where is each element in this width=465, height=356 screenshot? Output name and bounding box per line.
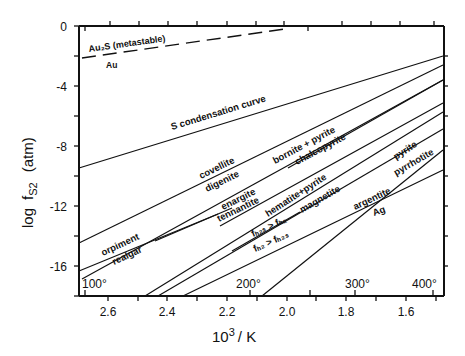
svg-text:1.8: 1.8 [338, 305, 355, 319]
label-ag: Ag [371, 203, 387, 218]
y-tick-labels: 0 -4 -8 -12 -16 [50, 20, 68, 274]
svg-text:2.4: 2.4 [159, 305, 176, 319]
svg-text:-4: -4 [56, 80, 67, 94]
svg-text:100°: 100° [82, 277, 107, 291]
x-axis-title: 103/ K [212, 326, 256, 345]
svg-text:300°: 300° [345, 277, 370, 291]
svg-text:1.6: 1.6 [398, 305, 415, 319]
svg-text:2.0: 2.0 [279, 305, 296, 319]
label-s-condensation: S condensation curve [169, 93, 267, 132]
temperature-labels: 100° 200° 300° 400° [82, 277, 437, 291]
svg-text:103/ K: 103/ K [212, 326, 256, 345]
x-tick-labels: 2.6 2.4 2.2 2.0 1.8 1.6 [100, 305, 415, 319]
svg-text:0: 0 [60, 20, 67, 34]
y-axis-title: logfS2(atm) [19, 137, 39, 228]
svg-text:-8: -8 [56, 140, 67, 154]
line-s-condensation [79, 56, 443, 168]
svg-text:2.2: 2.2 [219, 305, 236, 319]
svg-text:400°: 400° [412, 277, 437, 291]
line-hematite-magnetite [145, 112, 443, 296]
svg-text:-16: -16 [50, 260, 68, 274]
phase-diagram-chart: 0 -4 -8 -12 -16 2.6 2.4 2.2 2.0 1.8 1.6 … [0, 0, 465, 356]
svg-text:2.6: 2.6 [100, 305, 117, 319]
line-pyrite-pyrrhotite [262, 150, 443, 296]
line-covellite-digenite [79, 65, 443, 243]
svg-text:logfS2(atm): logfS2(atm) [19, 137, 39, 228]
label-au: Au [106, 60, 117, 70]
svg-text:200°: 200° [236, 277, 261, 291]
line-annotations: Au₂S (metastable) Au S condensation curv… [88, 33, 436, 267]
svg-text:-12: -12 [50, 200, 68, 214]
